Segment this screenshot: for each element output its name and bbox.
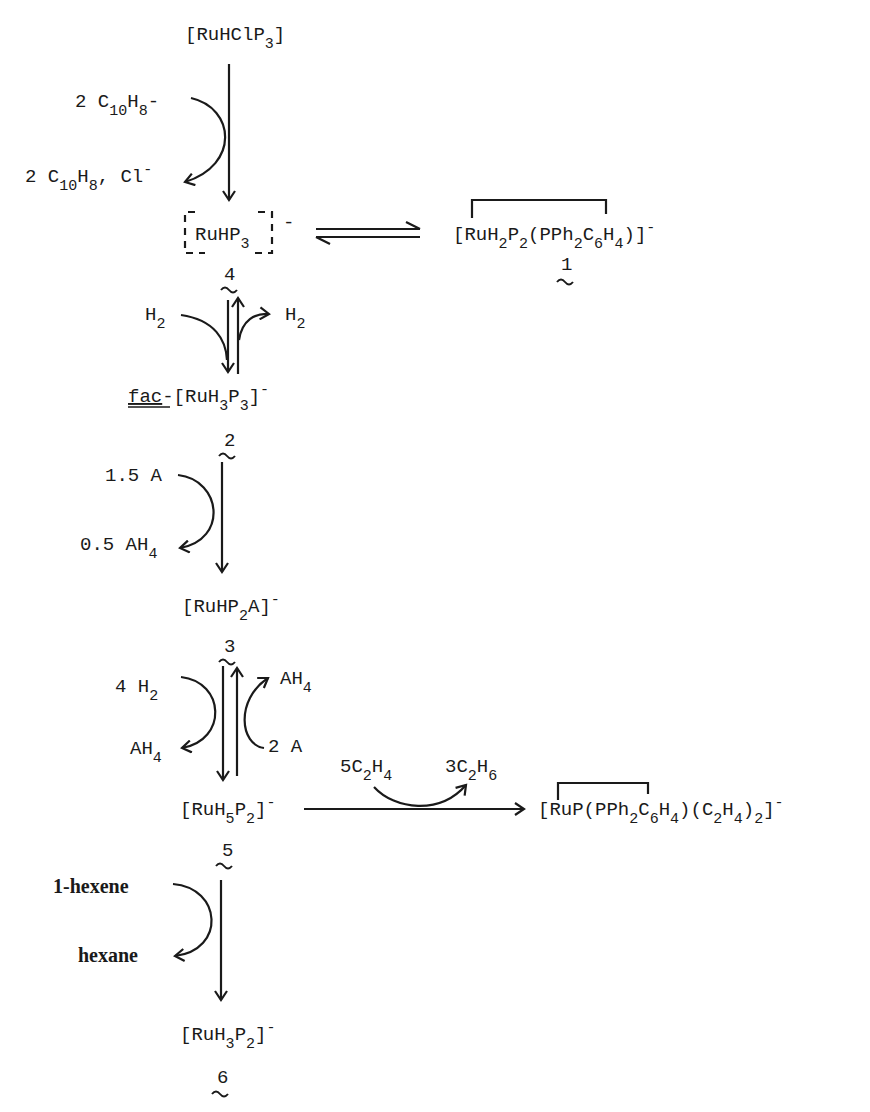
byproduct-0.5ah4: 0.5 AH4 [80,534,157,563]
byproduct-ah4-forward: AH4 [130,738,162,767]
svg-text:2 C10H8-: 2 C10H8- [75,91,159,120]
reagent-h2-in: H2 [145,304,165,333]
byproduct-h2-out: H2 [285,304,305,333]
curved-arrow-step4-reverse [245,678,268,748]
svg-text:5C2H4: 5C2H4 [340,756,392,785]
byproduct-3c2h6: 3C2H6 [445,756,497,785]
curved-arrow-step6 [173,884,212,956]
curved-arrow-ethylene [374,785,466,806]
svg-text:[RuH3P2]-: [RuH3P2]- [180,1020,275,1053]
svg-text:0.5 AH4: 0.5 AH4 [80,534,157,563]
reaction-scheme: [RuHClP3] 2 C10H8- 2 C10H8, Cl- RuHP3 - … [0,0,870,1112]
svg-text:4 H2: 4 H2 [115,676,158,705]
svg-text:RuHP3: RuHP3 [195,224,250,253]
reagent-1.5a: 1.5 A [105,465,163,487]
curved-arrow-h2-in [181,315,227,360]
compound-label-3: 3 [224,636,235,658]
svg-text:3C2H6: 3C2H6 [445,756,497,785]
reagent-2a: 2 A [268,736,303,758]
product-hexane: hexane [78,944,138,966]
svg-text:H2: H2 [285,304,305,333]
reagent-4h2: 4 H2 [115,676,158,705]
compound-label-2: 2 [224,430,235,452]
svg-text:[RuP(PPh2C6H4)(C2H4)2]-: [RuP(PPh2C6H4)(C2H4)2]- [538,795,784,828]
compound-label-5: 5 [222,840,233,862]
curved-arrow-step4 [181,677,215,748]
svg-text:H2: H2 [145,304,165,333]
curved-arrow-step3 [178,475,214,548]
svg-text:[RuHP2A]-: [RuHP2A]- [182,592,280,625]
compound-2: fac-[RuH3P3]- 2 [128,382,269,459]
svg-text:[RuHClP3]: [RuHClP3] [185,24,285,53]
curved-arrow-step1 [185,98,225,182]
byproduct-naphthalene-chloride: 2 C10H8, Cl- [25,162,152,195]
svg-text:[RuH5P2]-: [RuH5P2]- [180,795,275,828]
svg-text:fac-[RuH3P3]-: fac-[RuH3P3]- [128,382,269,415]
compound-5: [RuH5P2]- 5 [180,795,275,869]
compound-label-4: 4 [224,264,235,286]
reagent-1-hexene: 1-hexene [53,875,129,897]
compound-3: [RuHP2A]- 3 [182,592,280,665]
svg-text:2 C10H8, Cl-: 2 C10H8, Cl- [25,162,152,195]
compound-4: RuHP3 - 4 [185,212,294,293]
species-ruhclp3: [RuHClP3] [185,24,285,53]
compound-label-6: 6 [217,1067,228,1089]
svg-text:AH4: AH4 [280,668,312,697]
byproduct-ah4-reverse: AH4 [280,668,312,697]
curved-arrow-h2-out [239,314,269,340]
compound-6: [RuH3P2]- 6 [180,1020,275,1097]
svg-text:-: - [283,212,294,234]
compound-ethylene-complex: [RuP(PPh2C6H4)(C2H4)2]- [538,783,784,828]
compound-label-1: 1 [561,254,572,276]
reagent-naphthalenide: 2 C10H8- [75,91,159,120]
compound-1: [RuH2P2(PPh2C6H4)]- 1 [453,200,655,285]
svg-text:[RuH2P2(PPh2C6H4)]-: [RuH2P2(PPh2C6H4)]- [453,220,655,253]
equilibrium-arrow-4-1 [316,222,420,244]
reagent-5c2h4: 5C2H4 [340,756,392,785]
svg-text:AH4: AH4 [130,738,162,767]
